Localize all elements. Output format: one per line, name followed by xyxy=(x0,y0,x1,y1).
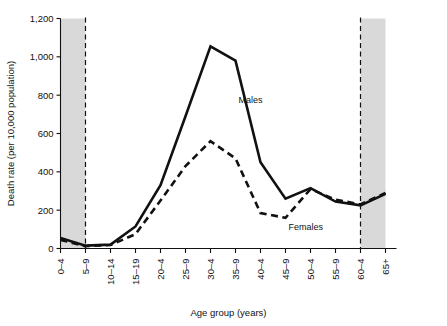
x-tick-label-1: 5–9 xyxy=(80,259,91,275)
x-tick-label-5: 25–9 xyxy=(180,259,191,280)
death-rate-by-age-chart: 02004006008001,0001,200 0–45–910–1415–19… xyxy=(0,0,447,326)
series-annotation-females: Females xyxy=(289,222,324,232)
x-tick-label-0: 0–4 xyxy=(55,259,66,275)
series-annotation-males: Males xyxy=(239,95,264,105)
y-tick-label-1200: 1,200 xyxy=(30,13,54,24)
x-tick-label-3: 15–19 xyxy=(130,259,141,285)
series-annotations: MalesFemales xyxy=(239,95,324,232)
y-tick-label-1000: 1,000 xyxy=(30,51,54,62)
shaded-band-left xyxy=(61,19,86,249)
x-tick-label-6: 30–4 xyxy=(205,259,216,280)
x-tick-label-13: 65+ xyxy=(380,258,391,275)
chart-canvas: 02004006008001,0001,200 0–45–910–1415–19… xyxy=(0,0,447,326)
x-tick-label-10: 50–4 xyxy=(305,259,316,280)
x-tick-label-2: 10–14 xyxy=(105,259,116,285)
y-tick-label-600: 600 xyxy=(38,128,54,139)
axes xyxy=(61,19,397,249)
y-axis-ticks: 02004006008001,0001,200 xyxy=(30,13,61,254)
data-series xyxy=(61,46,386,246)
x-tick-label-7: 35–9 xyxy=(230,259,241,280)
x-tick-label-12: 60–4 xyxy=(355,259,366,280)
y-tick-label-0: 0 xyxy=(48,243,53,254)
x-tick-label-8: 40–4 xyxy=(255,259,266,280)
series-line-females xyxy=(61,141,386,246)
y-tick-label-200: 200 xyxy=(38,205,54,216)
shaded-band-right xyxy=(361,19,386,249)
x-axis-ticks: 0–45–910–1415–1920–425–930–435–940–445–9… xyxy=(55,249,391,285)
y-tick-label-800: 800 xyxy=(38,90,54,101)
y-tick-label-400: 400 xyxy=(38,166,54,177)
y-axis-title: Death rate (per 10,000 population) xyxy=(5,61,16,206)
x-tick-label-4: 20–4 xyxy=(155,259,166,280)
x-axis-title: Age group (years) xyxy=(190,307,266,318)
series-line-males xyxy=(61,46,386,245)
x-tick-label-9: 45–9 xyxy=(280,259,291,280)
x-tick-label-11: 55–9 xyxy=(330,259,341,280)
